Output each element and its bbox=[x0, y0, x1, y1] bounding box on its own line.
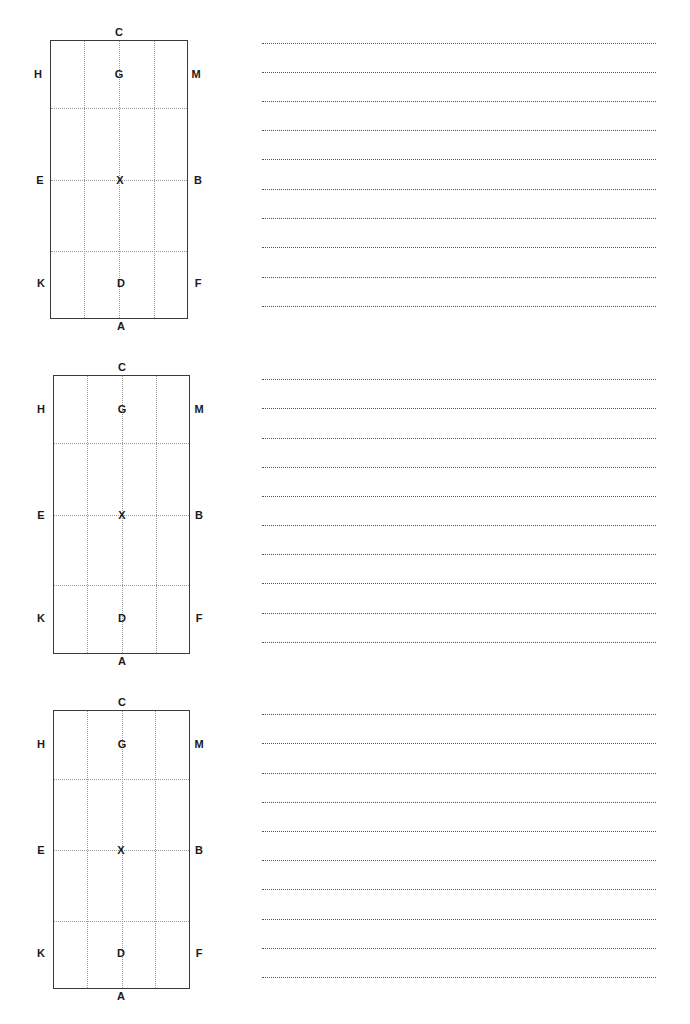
writing-line[interactable] bbox=[262, 408, 656, 409]
marker-h: H bbox=[34, 738, 48, 750]
writing-line[interactable] bbox=[262, 889, 656, 890]
writing-line[interactable] bbox=[262, 977, 656, 978]
marker-x: X bbox=[113, 174, 127, 186]
marker-g: G bbox=[115, 403, 129, 415]
writing-line[interactable] bbox=[262, 247, 656, 248]
writing-line[interactable] bbox=[262, 554, 656, 555]
marker-h: H bbox=[31, 68, 45, 80]
marker-x: X bbox=[114, 844, 128, 856]
marker-d: D bbox=[114, 947, 128, 959]
cross-line bbox=[54, 921, 189, 922]
writing-line[interactable] bbox=[262, 101, 656, 102]
marker-f: F bbox=[191, 277, 205, 289]
writing-line[interactable] bbox=[262, 831, 656, 832]
marker-g: G bbox=[112, 68, 126, 80]
writing-line[interactable] bbox=[262, 613, 656, 614]
marker-a: A bbox=[114, 990, 128, 1002]
marker-a: A bbox=[114, 320, 128, 332]
marker-g: G bbox=[115, 738, 129, 750]
marker-b: B bbox=[192, 844, 206, 856]
writing-line[interactable] bbox=[262, 743, 656, 744]
marker-b: B bbox=[191, 174, 205, 186]
writing-line[interactable] bbox=[262, 189, 656, 190]
cross-line bbox=[54, 585, 189, 586]
cross-line bbox=[54, 443, 189, 444]
marker-e: E bbox=[33, 174, 47, 186]
cross-line bbox=[51, 108, 187, 109]
cross-line bbox=[51, 251, 187, 252]
writing-line[interactable] bbox=[262, 277, 656, 278]
writing-line[interactable] bbox=[262, 802, 656, 803]
writing-line[interactable] bbox=[262, 714, 656, 715]
writing-line[interactable] bbox=[262, 919, 656, 920]
arena-block-1: C A H E K M B F G X D bbox=[0, 0, 690, 335]
marker-c: C bbox=[112, 26, 126, 38]
marker-k: K bbox=[34, 612, 48, 624]
marker-e: E bbox=[34, 844, 48, 856]
writing-line[interactable] bbox=[262, 642, 656, 643]
writing-line[interactable] bbox=[262, 525, 656, 526]
marker-c: C bbox=[115, 361, 129, 373]
marker-h: H bbox=[34, 403, 48, 415]
writing-line[interactable] bbox=[262, 860, 656, 861]
writing-line[interactable] bbox=[262, 467, 656, 468]
writing-line[interactable] bbox=[262, 159, 656, 160]
marker-b: B bbox=[192, 509, 206, 521]
cross-line bbox=[54, 779, 189, 780]
arena-block-2: C A H E K M B F G X D bbox=[0, 335, 690, 670]
marker-f: F bbox=[192, 612, 206, 624]
writing-line[interactable] bbox=[262, 130, 656, 131]
writing-line[interactable] bbox=[262, 72, 656, 73]
writing-line[interactable] bbox=[262, 218, 656, 219]
marker-x: X bbox=[115, 509, 129, 521]
writing-line[interactable] bbox=[262, 773, 656, 774]
writing-line[interactable] bbox=[262, 496, 656, 497]
marker-c: C bbox=[115, 696, 129, 708]
writing-line[interactable] bbox=[262, 379, 656, 380]
writing-line[interactable] bbox=[262, 583, 656, 584]
marker-m: M bbox=[189, 68, 203, 80]
writing-line[interactable] bbox=[262, 306, 656, 307]
marker-m: M bbox=[192, 738, 206, 750]
marker-e: E bbox=[34, 509, 48, 521]
marker-d: D bbox=[115, 612, 129, 624]
writing-line[interactable] bbox=[262, 438, 656, 439]
writing-line[interactable] bbox=[262, 43, 656, 44]
marker-k: K bbox=[34, 947, 48, 959]
marker-a: A bbox=[115, 655, 129, 667]
marker-f: F bbox=[192, 947, 206, 959]
writing-line[interactable] bbox=[262, 948, 656, 949]
marker-m: M bbox=[192, 403, 206, 415]
arena-block-3: C A H E K M B F G X D bbox=[0, 670, 690, 1005]
marker-d: D bbox=[114, 277, 128, 289]
marker-k: K bbox=[34, 277, 48, 289]
